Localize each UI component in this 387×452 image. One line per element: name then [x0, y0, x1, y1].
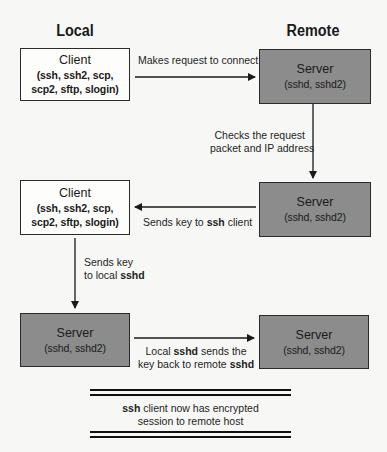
server-programs: (sshd, sshd2)	[284, 77, 346, 91]
server-programs: (sshd, sshd2)	[284, 210, 346, 224]
send-back-bold: sshd	[174, 345, 199, 357]
server-programs: (sshd, sshd2)	[44, 341, 106, 355]
step-send-back-label: Local sshd sends the key back to remote …	[138, 345, 254, 371]
server-box-2: Server (sshd, sshd2)	[259, 182, 371, 237]
client-programs-line2: scp2, sftp, slogin)	[31, 215, 118, 229]
local-sshd-text: to local	[84, 269, 120, 281]
result-bold: ssh	[122, 402, 140, 414]
client-programs-line2: scp2, sftp, slogin)	[31, 82, 118, 96]
step-local-sshd-label: Sends key to local sshd	[84, 256, 145, 282]
send-key-text: Sends key to	[143, 216, 207, 228]
top-rule-1	[90, 389, 291, 391]
server-title: Server	[57, 326, 94, 341]
send-back-text-post: sends the	[198, 345, 246, 357]
send-back-line1: Local sshd sends the	[138, 345, 254, 358]
client-box-2: Client (ssh, ssh2, scp, scp2, sftp, slog…	[20, 180, 130, 235]
server-title: Server	[297, 195, 334, 210]
client-box-1: Client (ssh, ssh2, scp, scp2, sftp, slog…	[20, 48, 130, 101]
server-box-1: Server (sshd, sshd2)	[259, 49, 371, 104]
top-rule-2	[90, 394, 291, 396]
local-sshd-line1: Sends key	[84, 256, 145, 269]
client-programs-line1: (ssh, ssh2, scp,	[37, 201, 114, 215]
server-box-3: Server (sshd, sshd2)	[20, 313, 130, 367]
send-back-bold2: sshd	[230, 358, 255, 370]
server-programs: (sshd, sshd2)	[283, 343, 345, 357]
step-request-label: Makes request to connect	[138, 54, 258, 67]
check-line1: Checks the request	[210, 129, 305, 142]
client-title: Client	[59, 53, 91, 68]
local-sshd-bold: sshd	[120, 269, 145, 281]
server-title: Server	[297, 62, 334, 77]
bottom-rule-1	[90, 431, 291, 433]
result-text: client now has encrypted	[140, 402, 258, 414]
server-title: Server	[296, 328, 333, 343]
step-check-label: Checks the request packet and IP address	[210, 129, 305, 155]
client-programs-line1: (ssh, ssh2, scp,	[37, 68, 114, 82]
send-key-text-post: client	[225, 216, 252, 228]
send-key-bold: ssh	[207, 216, 225, 228]
result-line1: ssh client now has encrypted	[90, 402, 291, 415]
send-back-text: Local	[146, 345, 174, 357]
client-title: Client	[59, 186, 91, 201]
result-label: ssh client now has encrypted session to …	[90, 402, 291, 428]
local-sshd-line2: to local sshd	[84, 269, 145, 282]
server-box-4: Server (sshd, sshd2)	[259, 315, 369, 369]
check-line2: packet and IP address	[210, 142, 305, 155]
bottom-rule-2	[90, 436, 291, 438]
step-send-key-label: Sends key to ssh client	[143, 216, 252, 229]
result-line2: session to remote host	[90, 415, 291, 428]
send-back-line2: key back to remote sshd	[138, 358, 254, 371]
send-back-text2: key back to remote	[138, 358, 230, 370]
